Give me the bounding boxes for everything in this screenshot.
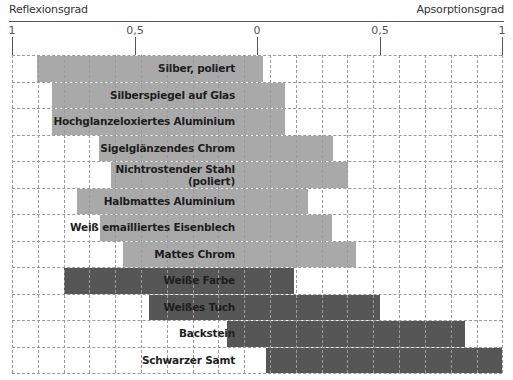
axis-tick-mark [135, 37, 136, 55]
bar-label: Halbmattes Aluminium [104, 195, 235, 207]
grid-hline [12, 294, 502, 295]
axis-tick-label: 0,5 [126, 24, 144, 37]
bar-11 [266, 348, 502, 374]
grid-hline [12, 320, 502, 321]
axis-tick-label: 0,5 [371, 24, 389, 37]
grid-hline [12, 241, 502, 242]
grid-hline [12, 55, 502, 56]
bar-label: Hochglanzeloxiertes Aluminium [53, 115, 235, 127]
bar-label: Weiße Farbe [163, 274, 235, 286]
bar-label: Mattes Chrom [154, 248, 235, 260]
header-divider [9, 21, 504, 22]
bar-label: Backstein [179, 327, 235, 339]
bar-label: Silber, poliert [158, 62, 235, 74]
bar-label: Weiß emailliertes Eisenblech [70, 221, 235, 233]
grid-hline [12, 188, 502, 189]
bar-label: Silberspiegel auf Glas [110, 89, 235, 101]
axis-tick-label: 0 [254, 24, 261, 37]
grid-hline [12, 161, 502, 162]
grid-hline [12, 82, 502, 83]
header-left-title: Reflexionsgrad [9, 3, 88, 16]
grid-vline [502, 55, 503, 373]
axis-tick-mark [12, 37, 13, 55]
chart-plot-area: Silber, poliertSilberspiegel auf GlasHoc… [12, 55, 502, 373]
axis-tick-label: 1 [499, 24, 506, 37]
bar-label: Schwarzer Samt [142, 354, 235, 366]
grid-hline [12, 214, 502, 215]
axis-tick-label: 1 [9, 24, 16, 37]
axis-tick-mark [257, 37, 258, 55]
bar-label: Weißes Tuch [164, 301, 236, 313]
grid-hline [12, 347, 502, 348]
header-right-title: Apsorptionsgrad [416, 3, 504, 16]
bar-label: Sigelglänzendes Chrom [100, 142, 235, 154]
bar-label: Nichtrostender Stahl (poliert) [115, 163, 235, 187]
bar-10 [227, 321, 465, 347]
grid-hline [12, 373, 502, 374]
grid-hline [12, 135, 502, 136]
axis-tick-mark [502, 37, 503, 55]
grid-hline [12, 267, 502, 268]
grid-hline [12, 108, 502, 109]
axis-tick-mark [380, 37, 381, 55]
